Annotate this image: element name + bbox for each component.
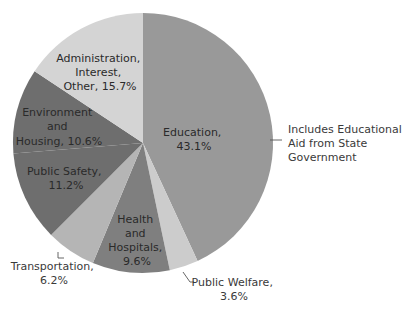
annotation-educational-aid: Includes Educational Aid from State Gove… [288, 123, 404, 164]
label-transportation: Transportation, 6.2% [10, 260, 97, 287]
pie-chart: Education, 43.1% Administration, Interes… [0, 0, 404, 310]
label-public-welfare: Public Welfare, 3.6% [192, 276, 277, 303]
leader-transportation [58, 252, 64, 258]
